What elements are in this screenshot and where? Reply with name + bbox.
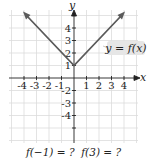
x-tick-label: 3 [108,80,114,91]
y-axis-label: y [68,0,76,12]
y-tick-label: -2 [61,85,71,96]
x-tick-label: -2 [42,80,52,91]
grid [9,10,138,143]
x-tick-label: 1 [83,80,89,91]
x-tick-labels: -4 -3 -2 -1 1 2 3 4 [17,80,127,91]
x-tick-label: 4 [121,80,127,91]
function-label: y = f(x) [104,42,146,55]
y-tick-label: 4 [65,23,71,34]
x-tick-label: 2 [96,80,102,91]
x-tick-label: -4 [17,80,27,91]
x-tick-label: -3 [30,80,40,91]
question-part-2: f(3) = ? [81,146,121,158]
y-tick-labels: 4 3 2 1 -2 -3 -4 [61,23,71,122]
y-tick-label: 3 [65,35,71,46]
question-text: f(−1) = ? f(3) = ? [0,146,147,158]
axes [9,10,140,143]
x-axis-label: x [140,71,147,84]
question-part-1: f(−1) = ? [26,146,75,158]
function-label-callout: y = f(x) [103,41,147,55]
y-tick-label: -3 [61,98,71,109]
function-graph: x y -4 -3 -2 -1 1 2 3 4 4 3 2 1 -2 -3 -4… [0,0,147,162]
y-tick-label: -4 [61,110,71,121]
